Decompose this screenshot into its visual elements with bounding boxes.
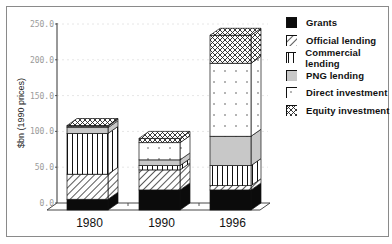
legend-label: Direct investment: [306, 87, 387, 98]
legend-label: Grants: [306, 17, 337, 28]
bar-segment-official-lending: [67, 174, 108, 199]
bar-segment-direct-investment: [139, 143, 180, 160]
bar-segment-png-lending: [210, 136, 251, 165]
legend-swatch-icon: [286, 70, 297, 81]
y-tick-label: 0.0: [40, 199, 55, 208]
x-category-label: 1990: [148, 216, 175, 230]
bar-segment-commercial-lending: [67, 133, 108, 174]
legend-item: Commercial lending: [286, 49, 392, 67]
legend-label: Equity investment: [306, 105, 390, 116]
legend-item: Direct investment: [286, 84, 392, 102]
bar-segment-commercial-lending: [139, 166, 180, 170]
legend-label: Official lending: [306, 35, 376, 46]
legend-item: Equity investment: [286, 102, 392, 120]
legend-label: PNG lending: [306, 70, 364, 81]
legend-item: Grants: [286, 14, 392, 32]
bars: [67, 28, 261, 210]
bar-segment-side: [108, 126, 118, 174]
bar-segment-direct-investment: [210, 63, 251, 136]
bar-segment-official-lending: [210, 186, 251, 190]
legend-swatch-icon: [286, 87, 297, 98]
legend-swatch-icon: [286, 105, 297, 116]
bar-1980: [67, 119, 118, 210]
y-tick-label: 50.0: [35, 163, 54, 172]
bar-1996: [210, 28, 261, 210]
y-tick-label: 200.0: [30, 56, 54, 65]
bar-segment-png-lending: [67, 128, 108, 134]
bar-segment-png-lending: [139, 160, 180, 166]
bar-segment-commercial-lending: [210, 166, 251, 186]
bar-segment-grants: [210, 190, 251, 210]
bar-segment-official-lending: [139, 170, 180, 190]
legend-label: Commercial lending: [305, 47, 392, 69]
y-axis-label: $bn (1990 prices): [16, 78, 26, 148]
bar-segment-equity-investment: [139, 138, 180, 142]
bar-1990: [139, 131, 190, 210]
bar-segment-side: [251, 56, 261, 136]
y-tick-label: 150.0: [30, 92, 54, 101]
y-tick-label: 250.0: [30, 20, 54, 29]
bar-segment-equity-investment: [210, 35, 251, 63]
legend-swatch-icon: [286, 17, 297, 28]
bar-segment-grants: [67, 199, 108, 210]
y-tick-label: 100.0: [30, 127, 54, 136]
legend-swatch-icon: [286, 52, 296, 63]
legend: GrantsOfficial lendingCommercial lending…: [286, 14, 392, 119]
legend-item: PNG lending: [286, 67, 392, 85]
bar-segment-grants: [139, 190, 180, 210]
x-category-label: 1996: [219, 216, 246, 230]
x-category-label: 1980: [76, 216, 103, 230]
legend-swatch-icon: [286, 35, 297, 46]
